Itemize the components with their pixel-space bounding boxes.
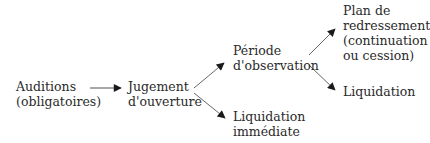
node-jugement-line-2: d'ouverture [128, 94, 202, 109]
node-auditions-line-1: Auditions [16, 79, 101, 94]
node-plan-redressement: Plan de redressement (continuation ou ce… [343, 3, 430, 63]
node-jugement-line-1: Jugement [128, 79, 202, 94]
node-liquidation: Liquidation [343, 84, 415, 99]
node-liquidation-line-1: Liquidation [343, 84, 415, 99]
node-auditions: Auditions (obligatoires) [16, 79, 101, 109]
node-liquidation-immediate-line-2: immédiate [233, 124, 305, 139]
node-periode-observation: Période d'observation [233, 43, 319, 73]
node-liquidation-immediate: Liquidation immédiate [233, 109, 305, 139]
node-plan-line-2: redressement [343, 18, 430, 33]
node-plan-line-1: Plan de [343, 3, 430, 18]
node-auditions-line-2: (obligatoires) [16, 94, 101, 109]
node-plan-line-3: (continuation [343, 33, 430, 48]
node-jugement-ouverture: Jugement d'ouverture [128, 79, 202, 109]
node-periode-line-2: d'observation [233, 58, 319, 73]
node-periode-line-1: Période [233, 43, 319, 58]
node-liquidation-immediate-line-1: Liquidation [233, 109, 305, 124]
node-plan-line-4: ou cession) [343, 48, 430, 63]
